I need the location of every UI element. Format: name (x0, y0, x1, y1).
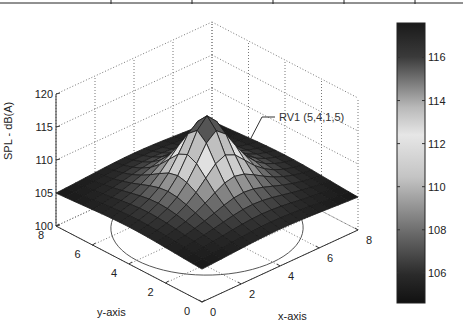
z-tick-label: 110 (23, 154, 53, 166)
colorbar-tick-label: 116 (428, 51, 446, 63)
y-tick-label: 0 (184, 305, 190, 317)
y-axis-label: y-axis (97, 306, 126, 318)
x-tick-label: 8 (366, 234, 372, 246)
surface-mesh (56, 116, 358, 269)
colorbar-tick-label: 106 (428, 267, 446, 279)
colorbar-tick-label: 114 (428, 95, 446, 107)
z-tick-label: 115 (23, 121, 53, 133)
y-tick-label: 8 (38, 229, 44, 241)
z-axis-label: SPL - dB(A) (2, 102, 14, 160)
x-axis-label: x-axis (278, 310, 307, 322)
z-tick-label: 120 (23, 88, 53, 100)
colorbar-tick-label: 110 (428, 181, 446, 193)
x-tick-label: 4 (288, 270, 294, 282)
z-tick-label: 105 (23, 187, 53, 199)
annotation-label: RV1 (5,4,1,5) (279, 111, 344, 123)
surface-plot (0, 0, 463, 333)
colorbar-tick-label: 108 (428, 224, 446, 236)
y-tick-label: 6 (75, 248, 81, 260)
x-tick-label: 2 (249, 288, 255, 300)
x-tick-label: 0 (210, 306, 216, 318)
colorbar-tick-label: 112 (428, 138, 446, 150)
y-tick-label: 4 (111, 267, 117, 279)
x-tick-label: 6 (327, 252, 333, 264)
annotation-leader (250, 117, 275, 140)
colorbar (397, 23, 425, 303)
y-tick-label: 2 (148, 286, 154, 298)
